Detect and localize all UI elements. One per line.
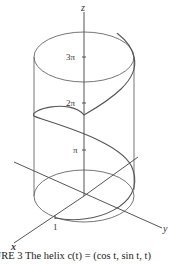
tick-label-3pi: 3π xyxy=(66,52,76,62)
z-axis-label: z xyxy=(80,2,85,13)
tick-label-2pi: 2π xyxy=(66,98,76,108)
tick-label-pi: π xyxy=(73,145,78,155)
helix-diagram: z 3π 2π π 1 x y xyxy=(0,0,175,264)
y-axis-label: y xyxy=(162,223,168,234)
figure-caption: GURE 3 The helix c(t) = (cos t, sin t, t… xyxy=(0,250,175,261)
tick-label-1: 1 xyxy=(53,222,58,232)
